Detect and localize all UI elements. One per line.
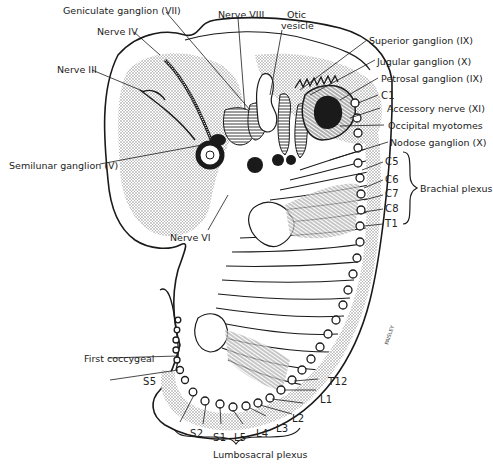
label-c5: C5 [385,157,399,167]
label-otic-line1: Otic [287,10,306,20]
ganglion-dark-1 [247,157,263,173]
label-l1: L1 [320,395,333,405]
label-nerve-vi: Nerve VI [170,233,211,243]
label-first-coccygeal: First coccygeal [84,354,154,364]
label-l2: L2 [292,414,305,424]
brachial-brace [403,152,417,224]
label-semilunar-ganglion: Semilunar ganglion (V) [9,161,118,171]
label-t12: T12 [328,377,348,387]
label-s2: S2 [190,429,203,439]
label-nodose-ganglion: Nodose ganglion (X) [390,138,487,148]
label-c7: C7 [385,189,399,199]
ganglion-dark-2 [272,154,284,166]
ganglion-dark-3 [286,155,296,165]
label-nerve-iv: Nerve IV [97,27,138,37]
label-petrosal-ganglion: Petrosal ganglion (IX) [381,74,483,84]
label-nerve-iii: Nerve III [57,65,97,75]
label-l4: L4 [256,429,269,439]
label-c8: C8 [385,204,399,214]
label-superior-ganglion: Superior ganglion (IX) [369,36,473,46]
label-otic-line2: vesicle [281,21,314,31]
label-c6: C6 [385,175,399,185]
label-s1: S1 [213,433,226,443]
artist-signature: PAISLEY [383,324,395,346]
label-occipital-myotomes: Occipital myotomes [388,121,483,131]
label-nerve-viii: Nerve VIII [218,10,264,20]
label-accessory-nerve: Accessory nerve (XI) [387,104,485,114]
label-brachial-plexus: Brachial plexus [420,184,493,194]
label-c1: C1 [381,91,395,101]
label-jugular-ganglion: Jugular ganglion (X) [377,57,471,67]
label-l3: L3 [276,424,289,434]
label-l5: L5 [234,433,247,443]
label-s5: S5 [143,377,156,387]
leg-bud [195,314,228,352]
label-lumbosacral-plexus: Lumbosacral plexus [213,450,308,460]
semilunar-ganglion [210,134,226,146]
label-t1: T1 [385,219,398,229]
label-geniculate-ganglion: Geniculate ganglion (VII) [63,6,181,16]
